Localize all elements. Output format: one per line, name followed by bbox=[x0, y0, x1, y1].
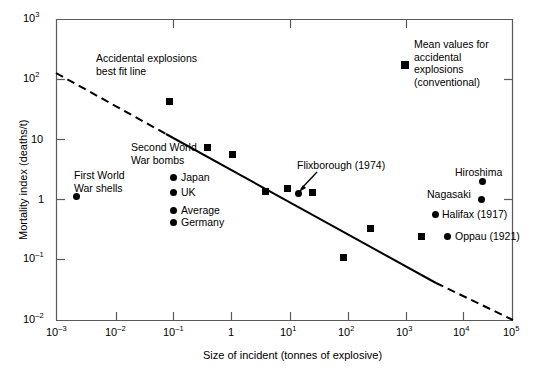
y-tick-exponent: 2 bbox=[35, 70, 39, 79]
y-tick-mantissa: 10 bbox=[23, 252, 35, 264]
x-tick-exponent: 5 bbox=[515, 324, 519, 333]
y-tick-label-0.01: 10–2 bbox=[23, 314, 44, 325]
swwb-line1: Second World bbox=[131, 141, 197, 154]
x-tick-exponent: 2 bbox=[350, 324, 354, 333]
fww-line1: First World bbox=[74, 169, 125, 182]
data-point-halifax bbox=[432, 211, 439, 218]
data-point-square bbox=[367, 225, 374, 232]
best-fit-line-label-line2: best fit line bbox=[96, 65, 197, 78]
legend-line2: accidental bbox=[414, 51, 489, 64]
legend-dot-germany bbox=[170, 219, 177, 226]
x-tick-label-0.01: 10–2 bbox=[105, 327, 126, 338]
best-fit-line-label: Accidental explosions best fit line bbox=[96, 52, 197, 77]
flixborough-label: Flixborough (1974) bbox=[297, 159, 385, 172]
x-tick-label-0.1: 10–1 bbox=[163, 327, 184, 338]
x-axis-ticks bbox=[117, 312, 464, 321]
x-tick-exponent: –3 bbox=[58, 324, 66, 333]
legend-dot-japan bbox=[170, 174, 177, 181]
legend-square-marker bbox=[401, 61, 409, 69]
x-tick-mantissa: 10 bbox=[338, 326, 350, 338]
y-tick-exponent: –2 bbox=[35, 311, 43, 320]
y-axis-ticks bbox=[57, 80, 66, 260]
data-point-square bbox=[229, 151, 236, 158]
legend-label-average: Average bbox=[181, 204, 220, 217]
x-tick-label-10000: 104 bbox=[453, 327, 469, 338]
legend-label-uk: UK bbox=[181, 186, 196, 199]
x-axis-ticks-top bbox=[174, 20, 407, 29]
legend-dot-average bbox=[170, 207, 177, 214]
x-tick-exponent: –2 bbox=[117, 324, 125, 333]
x-axis-title: Size of incident (tonnes of explosive) bbox=[203, 349, 382, 361]
nagasaki-label: Nagasaki bbox=[427, 188, 471, 201]
x-tick-label-10: 101 bbox=[280, 327, 296, 338]
data-point-first-world-war-shells bbox=[73, 193, 80, 200]
y-tick-exponent: 3 bbox=[35, 10, 39, 19]
x-tick-label-100000: 105 bbox=[503, 327, 519, 338]
y-tick-mantissa: 10 bbox=[23, 12, 35, 24]
y-tick-label-1: 1 bbox=[38, 194, 44, 205]
hiroshima-label: Hiroshima bbox=[455, 166, 502, 179]
x-tick-mantissa: 10 bbox=[46, 326, 58, 338]
x-tick-mantissa: 10 bbox=[503, 326, 515, 338]
fww-line2: War shells bbox=[74, 182, 125, 195]
data-point-square bbox=[262, 188, 269, 195]
y-tick-label-10: 10 bbox=[31, 134, 43, 145]
y-tick-mantissa: 10 bbox=[23, 72, 35, 84]
legend-label-japan: Japan bbox=[181, 171, 210, 184]
y-tick-mantissa: 10 bbox=[31, 133, 43, 145]
x-tick-mantissa: 10 bbox=[396, 326, 408, 338]
x-tick-exponent: –1 bbox=[175, 324, 183, 333]
x-tick-mantissa: 10 bbox=[453, 326, 465, 338]
y-tick-label-0.1: 10–1 bbox=[23, 253, 44, 264]
legend-line4: (conventional) bbox=[414, 76, 489, 89]
y-tick-label-100: 102 bbox=[23, 73, 39, 84]
x-tick-mantissa: 10 bbox=[105, 326, 117, 338]
y-axis-title: Mortality index (deaths/t) bbox=[17, 120, 29, 240]
data-point-oppau bbox=[444, 233, 451, 240]
x-tick-exponent: 4 bbox=[465, 324, 469, 333]
legend-line1: Mean values for bbox=[414, 38, 489, 51]
x-tick-label-100: 102 bbox=[338, 327, 354, 338]
x-tick-label-0.001: 10–3 bbox=[46, 327, 67, 338]
y-tick-label-1000: 103 bbox=[23, 13, 39, 24]
legend-mean-values-label: Mean values for accidental explosions (c… bbox=[414, 38, 489, 88]
second-world-war-bombs-label: Second World War bombs bbox=[131, 141, 197, 166]
y-tick-mantissa: 10 bbox=[23, 313, 35, 325]
legend-dot-uk bbox=[170, 189, 177, 196]
halifax-label: Halifax (1917) bbox=[442, 208, 507, 221]
data-point-flixborough bbox=[295, 190, 302, 197]
data-point-square bbox=[418, 233, 425, 240]
data-point-square bbox=[166, 98, 173, 105]
x-tick-exponent: 3 bbox=[408, 324, 412, 333]
y-axis-ticks-right bbox=[504, 80, 513, 200]
best-fit-line-label-line1: Accidental explosions bbox=[96, 52, 197, 65]
oppau-label: Oppau (1921) bbox=[455, 230, 520, 243]
data-point-nagasaki bbox=[478, 196, 485, 203]
x-tick-label-1: 1 bbox=[228, 327, 234, 338]
data-point-square bbox=[204, 144, 211, 151]
y-tick-exponent: –1 bbox=[35, 250, 43, 259]
data-point-square bbox=[284, 185, 291, 192]
legend-label-germany: Germany bbox=[181, 216, 224, 229]
data-point-square bbox=[309, 189, 316, 196]
x-tick-exponent: 1 bbox=[292, 324, 296, 333]
y-tick-mantissa: 1 bbox=[38, 193, 44, 205]
x-tick-label-1000: 103 bbox=[396, 327, 412, 338]
data-point-hiroshima bbox=[479, 178, 486, 185]
legend-line3: explosions bbox=[414, 63, 489, 76]
data-point-square bbox=[340, 254, 347, 261]
x-tick-mantissa: 1 bbox=[228, 326, 234, 338]
first-world-war-shells-label: First World War shells bbox=[74, 169, 125, 194]
x-tick-mantissa: 10 bbox=[163, 326, 175, 338]
chart-canvas: 103 102 10 1 10–1 10–2 10–3 10–2 10–1 1 … bbox=[0, 0, 545, 371]
x-tick-mantissa: 10 bbox=[280, 326, 292, 338]
swwb-line2: War bombs bbox=[131, 154, 197, 167]
